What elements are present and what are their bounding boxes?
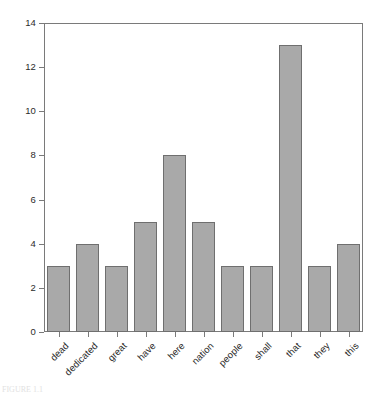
x-axis-tick-mark bbox=[146, 332, 147, 337]
x-axis-tick-mark bbox=[320, 332, 321, 337]
x-axis-tick-label: people bbox=[216, 340, 244, 368]
y-axis-tick-label: 4 bbox=[31, 238, 36, 249]
y-axis-tick-label: 2 bbox=[31, 282, 36, 293]
bar bbox=[221, 266, 244, 332]
x-axis-tick-mark bbox=[59, 332, 60, 337]
x-axis-tick-mark bbox=[291, 332, 292, 337]
x-axis-tick-label: nation bbox=[189, 340, 216, 367]
y-axis-tick-label: 14 bbox=[25, 17, 36, 28]
bar bbox=[76, 244, 99, 332]
bar bbox=[308, 266, 331, 332]
x-axis-tick-label: this bbox=[342, 340, 361, 359]
clipped-caption: FIGURE 1.1 bbox=[2, 385, 232, 394]
bar bbox=[47, 266, 70, 332]
x-axis-tick-mark bbox=[233, 332, 234, 337]
y-axis: 02468101214 bbox=[0, 0, 44, 355]
bar bbox=[337, 244, 360, 332]
x-axis-tick-label: have bbox=[135, 340, 158, 363]
x-axis-tick-label: dead bbox=[47, 340, 70, 363]
x-axis-tick-label: great bbox=[105, 340, 128, 363]
bars-layer bbox=[44, 23, 363, 332]
x-axis-tick-label: that bbox=[283, 340, 302, 359]
y-axis-tick-label: 10 bbox=[25, 105, 36, 116]
bar bbox=[250, 266, 273, 332]
bar-chart-figure: 02468101214 deaddedicatedgreathaveherena… bbox=[0, 0, 385, 395]
x-axis-tick-label: they bbox=[311, 340, 332, 361]
x-axis-tick-mark bbox=[88, 332, 89, 337]
x-axis-tick-mark bbox=[262, 332, 263, 337]
x-axis-tick-label: shall bbox=[251, 340, 273, 362]
y-axis-tick-label: 0 bbox=[31, 326, 36, 337]
bar bbox=[279, 45, 302, 332]
y-axis-tick-label: 8 bbox=[31, 149, 36, 160]
x-axis-tick-mark bbox=[175, 332, 176, 337]
x-axis-tick-mark bbox=[117, 332, 118, 337]
y-axis-tick-label: 6 bbox=[31, 194, 36, 205]
bar bbox=[192, 222, 215, 332]
x-axis-tick-label: here bbox=[165, 340, 187, 362]
y-axis-tick-label: 12 bbox=[25, 61, 36, 72]
x-axis-tick-mark bbox=[349, 332, 350, 337]
bar bbox=[163, 155, 186, 332]
bar bbox=[105, 266, 128, 332]
bar bbox=[134, 222, 157, 332]
x-axis-tick-mark bbox=[204, 332, 205, 337]
